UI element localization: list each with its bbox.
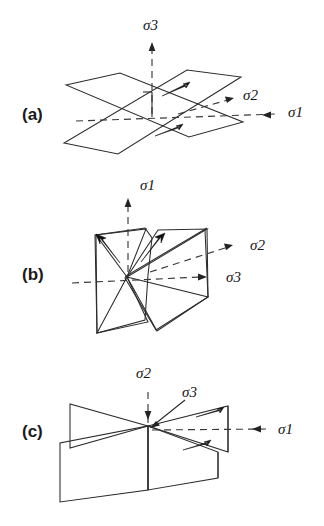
fault-plane-a1 bbox=[66, 73, 243, 137]
sigma2-arrowhead-c bbox=[145, 411, 152, 420]
panel-b-tag: (b) bbox=[22, 265, 44, 284]
sigma2-axis-b bbox=[150, 248, 225, 272]
sigma3-arrowhead-a bbox=[149, 42, 156, 51]
panel-b-sigma2-label: σ2 bbox=[250, 237, 265, 253]
sigma2-arrowhead-a bbox=[225, 96, 234, 103]
sigma3-axis-b bbox=[72, 277, 200, 283]
fault-plane-b2 bbox=[125, 228, 208, 330]
sigma3-arrowhead-b bbox=[198, 274, 207, 281]
sigma1-arrowhead-c bbox=[252, 426, 261, 433]
panel-c-sigma3-label: σ3 bbox=[182, 384, 197, 400]
figure-canvas: (a) σ3 σ2 σ1 bbox=[0, 0, 324, 526]
slip-arrow-a-lower bbox=[155, 124, 183, 136]
panel-b-sigma1-label: σ1 bbox=[140, 177, 155, 193]
fault-plane-c-front-right bbox=[148, 426, 218, 490]
slip-arrow-b-left bbox=[96, 234, 120, 263]
fault-plane-c-front-left bbox=[60, 426, 148, 502]
fault-plane-c-back-left bbox=[70, 404, 148, 448]
stress-fault-figure: (a) σ3 σ2 σ1 bbox=[0, 0, 324, 526]
panel-a: (a) σ3 σ2 σ1 bbox=[22, 17, 303, 154]
panel-a-tag: (a) bbox=[22, 105, 43, 124]
panel-c-tag: (c) bbox=[22, 422, 43, 441]
panel-a-sigma3-label: σ3 bbox=[143, 17, 158, 33]
panel-a-sigma2-label: σ2 bbox=[243, 87, 258, 103]
panel-b-sigma3-label: σ3 bbox=[226, 269, 241, 285]
sigma3-arrowhead-c bbox=[150, 421, 160, 428]
slip-arrow-c-upper bbox=[196, 407, 224, 417]
sigma1-arrowhead-a bbox=[262, 112, 271, 119]
sigma1-arrowhead-b bbox=[125, 198, 132, 207]
panel-b: (b) σ1 σ2 σ3 bbox=[22, 177, 265, 333]
panel-c-sigma1-label: σ1 bbox=[278, 421, 293, 437]
panel-c-sigma2-label: σ2 bbox=[136, 365, 151, 381]
fault-plane-b-right-upper bbox=[127, 229, 207, 277]
panel-a-sigma1-label: σ1 bbox=[288, 104, 303, 120]
fault-plane-b-left-edge bbox=[96, 235, 97, 333]
fault-plane-b-left-lower bbox=[97, 277, 148, 333]
panel-c: (c) σ2 σ3 σ1 bbox=[22, 365, 293, 502]
slip-arrow-a-upper bbox=[162, 82, 190, 96]
sigma1-axis-c bbox=[152, 429, 266, 430]
sigma2-arrowhead-b bbox=[224, 244, 233, 251]
